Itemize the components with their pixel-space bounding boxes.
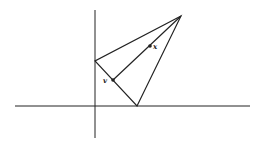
diagram-canvas: x v xyxy=(0,0,261,148)
point-x-label: x xyxy=(152,42,158,51)
point-x-dot xyxy=(148,44,152,48)
point-v-dot xyxy=(111,78,115,82)
point-v-label: v xyxy=(103,76,108,85)
triangle xyxy=(95,16,181,106)
segment-apex-to-v xyxy=(113,16,181,80)
